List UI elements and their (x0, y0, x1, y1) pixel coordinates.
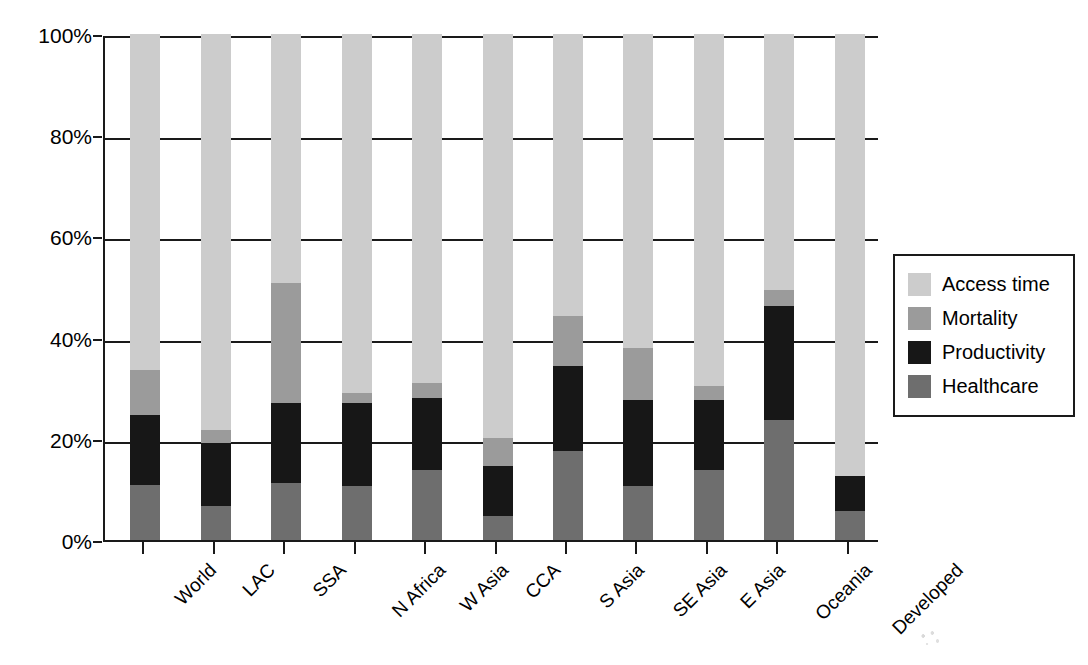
bar-oceania[interactable] (764, 38, 794, 540)
bar-segment-productivity[interactable] (483, 466, 513, 516)
y-tick-label: 100% (0, 25, 92, 46)
x-tick-mark (424, 542, 426, 554)
bar-segment-access-time[interactable] (342, 34, 372, 393)
bar-segment-productivity[interactable] (694, 400, 724, 470)
x-tick-mark (565, 542, 567, 554)
legend-swatch-icon (908, 273, 931, 296)
stacked-bar-chart: 100%80%60%40%20%0% WorldLACSSAN AfricaW … (0, 0, 1088, 665)
plot-area (103, 36, 878, 542)
bar-segment-productivity[interactable] (201, 443, 231, 506)
x-axis-label: W Asia (456, 560, 511, 615)
bar-segment-mortality[interactable] (764, 290, 794, 306)
x-axis-label: Developed (888, 560, 966, 638)
x-axis-label: SSA (309, 560, 349, 600)
bar-segment-access-time[interactable] (835, 34, 865, 476)
bar-segment-healthcare[interactable] (130, 485, 160, 540)
bar-segment-access-time[interactable] (412, 34, 442, 383)
x-tick-mark (283, 542, 285, 554)
bar-segment-access-time[interactable] (201, 34, 231, 430)
y-tick-mark (93, 237, 102, 239)
y-tick-label: 0% (0, 531, 92, 552)
bar-ssa[interactable] (271, 38, 301, 540)
bar-segment-mortality[interactable] (412, 383, 442, 398)
bar-segment-mortality[interactable] (130, 370, 160, 415)
y-tick-mark (93, 136, 102, 138)
bar-segment-productivity[interactable] (271, 403, 301, 483)
bar-segment-access-time[interactable] (694, 34, 724, 386)
bar-segment-healthcare[interactable] (412, 470, 442, 540)
y-tick-mark (93, 541, 102, 543)
legend-item[interactable]: Access time (908, 267, 1063, 301)
x-axis-label: LAC (238, 560, 278, 600)
legend-label: Healthcare (942, 376, 1039, 396)
legend-label: Access time (942, 274, 1050, 294)
bar-segment-productivity[interactable] (835, 476, 865, 511)
bar-segment-healthcare[interactable] (694, 470, 724, 540)
legend-item[interactable]: Mortality (908, 301, 1063, 335)
bar-segment-access-time[interactable] (764, 34, 794, 290)
x-axis-label: S Asia (596, 560, 648, 612)
x-tick-mark (776, 542, 778, 554)
x-tick-mark (213, 542, 215, 554)
y-tick-label: 80% (0, 126, 92, 147)
y-tick-label: 40% (0, 329, 92, 350)
bar-segment-productivity[interactable] (623, 400, 653, 486)
bar-segment-mortality[interactable] (342, 393, 372, 403)
bar-segment-mortality[interactable] (623, 348, 653, 400)
y-tick-mark (93, 339, 102, 341)
bar-cca[interactable] (483, 38, 513, 540)
bar-developed[interactable] (835, 38, 865, 540)
bar-w-asia[interactable] (412, 38, 442, 540)
x-axis-label: World (172, 560, 220, 608)
x-tick-mark (635, 542, 637, 554)
bar-segment-healthcare[interactable] (553, 451, 583, 540)
legend-swatch-icon (908, 341, 931, 364)
legend-swatch-icon (908, 307, 931, 330)
y-tick-mark (93, 35, 102, 37)
x-axis-label: N Africa (388, 560, 448, 620)
legend-label: Mortality (942, 308, 1018, 328)
bar-s-asia[interactable] (553, 38, 583, 540)
bar-world[interactable] (130, 38, 160, 540)
bar-segment-productivity[interactable] (553, 366, 583, 451)
bar-segment-healthcare[interactable] (201, 506, 231, 540)
bar-segment-productivity[interactable] (764, 306, 794, 420)
bar-segment-access-time[interactable] (271, 34, 301, 283)
x-tick-mark (142, 542, 144, 554)
scan-artifact-speck (918, 628, 944, 648)
y-tick-mark (93, 440, 102, 442)
bar-segment-mortality[interactable] (483, 438, 513, 466)
bar-segment-mortality[interactable] (201, 430, 231, 443)
bar-segment-healthcare[interactable] (483, 516, 513, 540)
bar-segment-healthcare[interactable] (271, 483, 301, 540)
bar-lac[interactable] (201, 38, 231, 540)
bar-segment-productivity[interactable] (412, 398, 442, 470)
bar-se-asia[interactable] (623, 38, 653, 540)
x-tick-mark (706, 542, 708, 554)
bar-segment-access-time[interactable] (483, 34, 513, 438)
bar-segment-healthcare[interactable] (835, 511, 865, 540)
x-axis-label: CCA (521, 560, 563, 602)
bar-segment-access-time[interactable] (553, 34, 583, 316)
bar-segment-productivity[interactable] (342, 403, 372, 486)
bar-segment-mortality[interactable] (694, 386, 724, 400)
legend-label: Productivity (942, 342, 1045, 362)
x-axis-label: Oceania (812, 560, 875, 623)
bar-segment-access-time[interactable] (130, 34, 160, 370)
x-axis-label: SE Asia (670, 560, 730, 620)
bar-e-asia[interactable] (694, 38, 724, 540)
legend-item[interactable]: Healthcare (908, 369, 1063, 403)
bar-segment-mortality[interactable] (553, 316, 583, 366)
legend-item[interactable]: Productivity (908, 335, 1063, 369)
bar-segment-productivity[interactable] (130, 415, 160, 485)
bar-n-africa[interactable] (342, 38, 372, 540)
legend-swatch-icon (908, 375, 931, 398)
bar-segment-access-time[interactable] (623, 34, 653, 348)
bar-segment-mortality[interactable] (271, 283, 301, 403)
bar-segment-healthcare[interactable] (342, 486, 372, 540)
bar-segment-healthcare[interactable] (764, 420, 794, 540)
bar-segment-healthcare[interactable] (623, 486, 653, 540)
x-axis-label: E Asia (737, 560, 789, 612)
x-tick-mark (354, 542, 356, 554)
y-tick-label: 20% (0, 430, 92, 451)
